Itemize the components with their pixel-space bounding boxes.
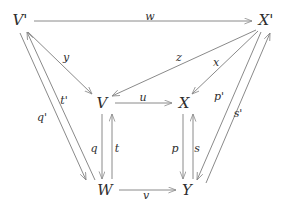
edge-label-v: v (143, 190, 149, 201)
edge-label-q: q (90, 143, 97, 154)
edge-label-p: p (171, 143, 178, 154)
edge-label-y: y (63, 52, 69, 63)
arrow-z (112, 30, 256, 96)
edge-label-z: z (176, 52, 182, 63)
node-x: X (179, 96, 190, 111)
edge-label-t-prime: t' (60, 95, 67, 106)
edge-label-t: t (115, 143, 119, 154)
commutative-diagram: V' X' V X W Y w y t' q' u z x q t p s p'… (0, 0, 288, 207)
diagram-arrows-layer (0, 0, 288, 207)
edge-label-p-prime: p' (214, 91, 224, 102)
node-v: V (97, 96, 108, 111)
arrow-q-prime (20, 33, 86, 180)
edge-label-w: w (145, 11, 154, 22)
arrow-y (28, 32, 92, 94)
edge-label-s-prime: s' (234, 108, 243, 119)
edge-label-q-prime: q' (37, 112, 47, 123)
node-y: Y (182, 183, 192, 198)
edge-label-x: x (213, 57, 219, 68)
node-x-prime: X' (259, 13, 274, 28)
arrow-p-prime (197, 32, 261, 180)
node-w: W (97, 183, 112, 198)
edge-label-u: u (139, 92, 146, 103)
edge-label-s: s (194, 143, 200, 154)
node-v-prime: V' (13, 13, 28, 28)
